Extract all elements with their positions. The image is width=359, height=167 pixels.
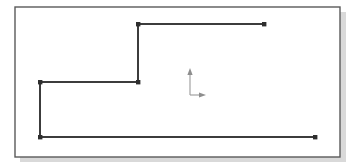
- vertex-marker-p1: [262, 22, 266, 26]
- vertex-marker-p6: [313, 135, 317, 139]
- vertex-marker-p5: [38, 135, 42, 139]
- figure-canvas: [0, 0, 359, 167]
- vertex-marker-p4: [38, 80, 42, 84]
- vertex-marker-p3: [136, 80, 140, 84]
- vertex-marker-p2: [136, 22, 140, 26]
- figure-root: [0, 0, 359, 167]
